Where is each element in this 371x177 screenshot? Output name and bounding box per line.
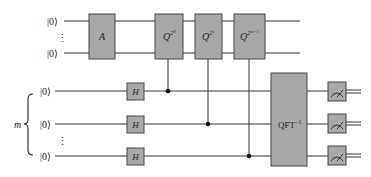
controlled-q-gates: Q20 Q21 Q2m−1 [155,14,265,158]
control-ellipsis: ⋮ [57,135,68,147]
measurements [328,82,361,165]
hadamard-gates: H H H [127,83,144,165]
hadamard-label-1: H [131,87,139,97]
gate-a: A [89,14,115,59]
control-qubit-label-3: |0⟩ [40,151,51,162]
qft-label: QFT [278,120,296,130]
inverse-qft-gate: QFT−1 [271,73,307,166]
gate-qm-supsup: m−1 [250,29,259,34]
quantum-circuit-diagram: |0⟩ |0⟩ ⋮ m |0⟩ |0⟩ |0⟩ ⋮ A Q20 [0,0,371,177]
gate-q-2-0: Q20 [155,14,183,59]
hadamard-gate-1: H [127,83,144,100]
control-qubit-label-1: |0⟩ [40,86,51,97]
qft-sup: −1 [295,119,301,125]
control-dot-3 [247,154,252,159]
register-brace [24,94,33,155]
gate-q-2-1: Q21 [195,14,222,59]
control-dot-1 [166,89,171,94]
hadamard-label-3: H [131,152,139,162]
target-ellipsis: ⋮ [57,32,68,44]
hadamard-label-2: H [131,120,139,130]
gate-q-2-m-1: Q2m−1 [234,14,265,59]
target-qubit-label-1: |0⟩ [47,16,58,27]
hadamard-gate-3: H [127,148,144,165]
measurement-2 [328,114,361,133]
hadamard-gate-2: H [127,116,144,133]
control-qubit-label-2: |0⟩ [40,119,51,130]
measurement-1 [328,82,361,101]
gate-q1-supsup: 1 [212,29,214,34]
gate-a-label: A [98,31,106,42]
target-qubit-label-2: |0⟩ [47,48,58,59]
measurement-3 [328,146,361,165]
register-size-label: m [14,119,21,130]
control-dot-2 [206,122,211,127]
